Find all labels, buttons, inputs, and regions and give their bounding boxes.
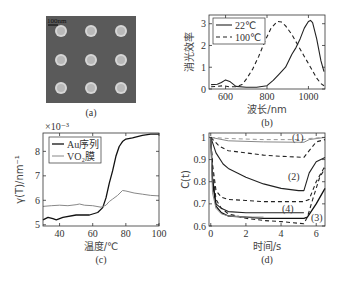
y-tick-label: 7 [35,170,40,181]
x-tick-label: 600 [218,91,233,102]
y-axis-label: 消光效率 [183,32,195,72]
panel-label: (c) [95,254,106,266]
panel-c-gamma-chart: 4060801005678温度/℃γ(T)/nm⁻¹(c)×10⁻³Au序列VO… [14,121,167,266]
y-tick-label: 2 [201,40,206,51]
y-tick-label: 1 [201,62,206,73]
series-line [211,137,325,139]
y-tick-label: 8 [35,146,40,157]
legend-label: 100℃ [235,32,261,43]
nanodisk-core [117,84,125,92]
x-tick-label: 2 [243,228,248,239]
x-axis-label: 温度/℃ [84,240,119,252]
annotation-3: (3) [311,212,323,224]
annotation-1: (1) [292,132,304,144]
legend-label: 22℃ [235,20,256,31]
y-tick-label: 0.8 [194,176,207,187]
y-tick-label: 0.9 [194,154,207,165]
nanodisk-core [117,56,125,64]
x-tick-label: 4 [279,228,284,239]
x-tick-label: 800 [260,91,275,102]
figure: 100nm (a) 60080010000123波长/nm消光效率(b)22℃1… [0,0,342,284]
series-line [211,137,264,217]
y-axis-label: C(t) [180,170,191,189]
nanodisk-core [57,27,65,35]
nanodisk-core [87,56,95,64]
y-tick-label: 0 [201,84,206,95]
panel-label-a: (a) [85,107,96,119]
y-tick-label: 5 [35,219,40,230]
annotation-4: (4) [282,203,294,215]
panel-b-extinction-chart: 60080010000123波长/nm消光效率(b)22℃100℃ [183,15,325,129]
y-tick-label: 0.6 [194,221,207,232]
annotation-2: (2) [288,171,300,183]
x-tick-label: 0 [208,228,213,239]
x-tick-label: 80 [121,228,131,239]
panel-d-correlation-chart: 02460.60.70.80.91时间/sC(t)(d)(1)(2)(3)(4) [180,132,325,266]
x-tick-label: 60 [88,228,98,239]
x-tick-label: 40 [55,228,65,239]
scale-bar-label: 100nm [47,17,67,25]
y-tick-label: 0.7 [194,198,207,209]
nanodisk-core [117,27,125,35]
x-tick-label: 6 [314,228,319,239]
nanodisk-core [57,84,65,92]
x-axis-label: 波长/nm [247,103,286,115]
nanodisk-core [87,27,95,35]
x-tick-label: 1000 [298,91,318,102]
y-tick-label: 1 [201,132,206,143]
series-line [43,191,159,208]
x-tick-label: 100 [152,228,167,239]
legend-label: Au序列 [67,138,99,150]
nanodisk-core [87,84,95,92]
panel-label: (b) [261,117,273,129]
y-multiplier: ×10⁻³ [45,121,69,132]
panel-a-sem-image: 100nm (a) [46,16,136,119]
y-tick-label: 6 [35,195,40,206]
x-axis-label: 时间/s [253,240,282,252]
legend-label: VO₂膜 [67,151,95,162]
y-tick-label: 3 [201,18,206,29]
panel-label: (d) [261,254,273,266]
series-line [211,137,325,190]
series-line [211,137,325,201]
y-axis-label: γ(T)/nm⁻¹ [14,155,25,204]
nanodisk-core [57,56,65,64]
